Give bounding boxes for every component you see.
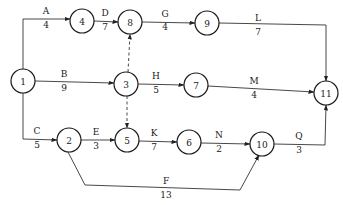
event-node-7: 7 [184, 73, 208, 97]
event-node-4: 4 [70, 9, 94, 33]
activity-duration-label: 4 [43, 20, 49, 30]
activity-duration-label: 7 [102, 22, 108, 32]
node-number-label: 7 [193, 81, 199, 91]
node-number-label: 2 [66, 136, 72, 146]
activity-arrow-h [138, 84, 184, 85]
activity-name-label: L [255, 13, 261, 23]
activity-network-diagram: A4D7G4L7B9H5M4C5E3K7N2Q3F13 123456789101… [0, 0, 343, 205]
activity-name-label: G [161, 9, 168, 19]
activity-duration-label: 4 [162, 22, 168, 32]
activity-name-label: A [42, 6, 50, 16]
activity-name-label: E [93, 127, 100, 137]
activity-name-label: K [151, 128, 158, 138]
dummy-arrow-3-8 [128, 34, 130, 72]
activity-arrow-g [142, 22, 195, 23]
activity-arrow-n [201, 143, 250, 144]
activity-name-label: C [34, 126, 41, 136]
activity-duration-label: 5 [153, 85, 159, 95]
node-number-label: 1 [20, 77, 26, 87]
event-node-6: 6 [177, 130, 201, 154]
activity-duration-label: 7 [255, 27, 261, 37]
activity-duration-label: 5 [34, 140, 40, 150]
event-node-9: 9 [195, 11, 219, 35]
activity-duration-label: 4 [251, 90, 257, 100]
activity-name-label: H [152, 71, 160, 81]
activity-name-label: B [61, 69, 68, 79]
activity-arrow-l [219, 23, 326, 81]
event-node-8: 8 [118, 10, 142, 34]
event-node-10: 10 [250, 132, 274, 156]
event-node-5: 5 [115, 128, 139, 152]
activity-duration-label: 13 [160, 190, 172, 200]
node-number-label: 4 [79, 17, 85, 27]
activity-duration-label: 2 [216, 144, 222, 154]
node-number-label: 8 [127, 18, 133, 28]
activity-name-label: F [163, 176, 169, 186]
activity-duration-label: 3 [296, 145, 302, 155]
activity-arrow-b [35, 81, 114, 83]
activity-duration-label: 3 [93, 141, 99, 151]
event-node-3: 3 [114, 72, 138, 96]
activity-name-label: D [101, 8, 108, 18]
event-node-2: 2 [57, 128, 81, 152]
nodes-layer: 1234567891011 [11, 9, 338, 156]
node-number-label: 3 [123, 80, 129, 90]
node-number-label: 9 [204, 19, 210, 29]
activity-name-label: N [215, 130, 223, 140]
event-node-11: 11 [314, 81, 338, 105]
activity-arrow-k [139, 141, 177, 142]
activity-name-label: Q [295, 131, 302, 141]
edge-labels-layer: A4D7G4L7B9H5M4C5E3K7N2Q3F13 [34, 6, 303, 200]
edges-layer [23, 19, 326, 190]
node-number-label: 10 [256, 140, 268, 150]
activity-arrow-m [208, 86, 314, 92]
activity-duration-label: 9 [61, 83, 67, 93]
node-number-label: 6 [186, 138, 192, 148]
node-number-label: 11 [320, 89, 331, 99]
event-node-1: 1 [11, 69, 35, 93]
activity-duration-label: 7 [151, 142, 157, 152]
node-number-label: 5 [124, 136, 130, 146]
activity-name-label: M [249, 76, 258, 86]
